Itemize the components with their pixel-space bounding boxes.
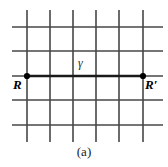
label-point-R-prime: R′: [145, 78, 157, 91]
lattice-diagram: [0, 0, 168, 167]
label-path-gamma: γ: [78, 57, 83, 69]
lattice-point-R: [24, 73, 30, 79]
label-point-R: R: [13, 78, 22, 91]
figure-panel-a: R R′ γ (a): [0, 0, 168, 167]
figure-caption: (a): [0, 144, 168, 160]
